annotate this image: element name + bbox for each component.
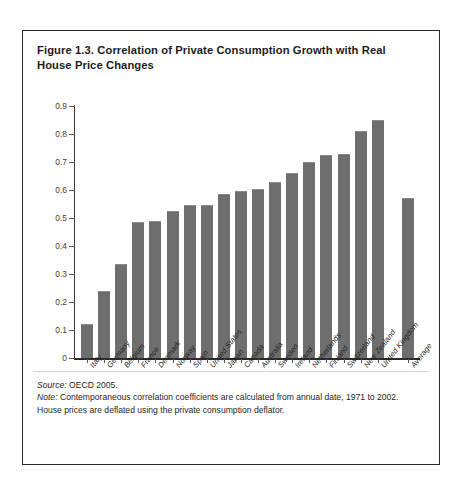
y-axis-tick-label: 0.1 [39,325,67,335]
bar [218,194,230,358]
y-axis-tick-label: 0.6 [39,185,67,195]
bar [338,154,350,358]
bar [303,162,315,358]
y-axis-tick-label-wrap: 0.7 [33,162,67,163]
y-axis-tick [69,106,75,107]
y-axis-tick-label-wrap: 0.4 [33,246,67,247]
bar [81,324,93,358]
note-label: Note: [37,392,58,402]
y-axis-tick-label: 0.4 [39,241,67,251]
y-axis-tick [69,330,75,331]
source-line: Source: OECD 2005. [37,379,429,391]
bar [98,291,110,358]
y-axis-line [74,105,75,359]
bar [132,222,144,358]
source-text: OECD 2005. [67,380,118,390]
y-axis-tick [69,274,75,275]
y-axis-tick-label-wrap: 0.2 [33,302,67,303]
y-axis-tick [69,190,75,191]
figure-panel: Figure 1.3. Correlation of Private Consu… [22,30,440,465]
y-axis-tick-label: 0.8 [39,129,67,139]
y-axis-tick [69,218,75,219]
x-axis-tick [361,359,362,363]
y-axis-tick-label: 0.3 [39,269,67,279]
bar [355,131,367,358]
y-axis-tick [69,358,75,359]
x-axis-tick [190,359,191,363]
y-axis-tick-label: 0.7 [39,157,67,167]
y-axis-tick-label: 0.5 [39,213,67,223]
note-text: Contemporaneous correlation coefficients… [58,392,399,402]
y-axis-tick-label: 0 [39,353,67,363]
x-axis-tick [344,359,345,363]
note-line: Note: Contemporaneous correlation coeffi… [37,391,429,403]
y-axis-tick-label-wrap: 0.5 [33,218,67,219]
bar [269,182,281,358]
bar [320,155,332,358]
y-axis-tick-label-wrap: 0.3 [33,274,67,275]
y-axis-tick [69,162,75,163]
y-axis-tick [69,134,75,135]
y-axis-tick-label-wrap: 0.1 [33,330,67,331]
y-axis-tick-label-wrap: 0.6 [33,190,67,191]
y-axis-tick-label-wrap: 0 [33,358,67,359]
source-label: Source: [37,380,67,390]
y-axis-tick-label-wrap: 0.8 [33,134,67,135]
bar [167,211,179,358]
notes-separator [33,371,429,372]
y-axis-tick [69,246,75,247]
x-axis-tick [173,359,174,363]
bar [372,120,384,358]
figure-notes: Source: OECD 2005. Note: Contemporaneous… [37,379,429,416]
y-axis-tick-label-wrap: 0.9 [33,106,67,107]
bar [286,173,298,358]
y-axis-tick-label: 0.2 [39,297,67,307]
bar [201,205,213,358]
bar [149,221,161,358]
bar [184,205,196,358]
y-axis-tick [69,302,75,303]
note-line-2: House prices are deflated using the priv… [37,404,429,416]
y-axis-tick-label: 0.9 [39,101,67,111]
bar [252,189,264,358]
